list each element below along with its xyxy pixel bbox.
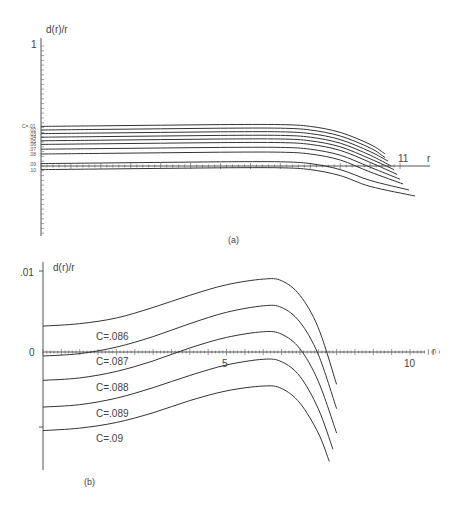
b-curve-2 bbox=[43, 305, 337, 408]
a-y-tick-1: 1 bbox=[31, 39, 37, 50]
curve-label-087: C=.087 bbox=[96, 356, 129, 367]
b-x-tick-5: 5 bbox=[222, 358, 228, 369]
panel-b: d(r)/r .01 0 5 10 r C=.086 C=.087 C=.088… bbox=[20, 262, 439, 487]
panel-a: d(r)/r 1 11 r C=.01.02.03.04.05.06.07.08… bbox=[22, 24, 431, 245]
b-y-axis-label: d(r)/r bbox=[53, 262, 75, 273]
b-x-tick-10: 10 bbox=[404, 358, 416, 369]
a-legend-label: .10 bbox=[29, 167, 36, 173]
b-y-tick-0: 0 bbox=[29, 347, 35, 358]
b-curve-4 bbox=[43, 359, 333, 449]
a-legend-label: .08 bbox=[29, 151, 36, 157]
curve-label-09: C=.09 bbox=[96, 433, 123, 444]
a-curve-3 bbox=[41, 132, 388, 162]
b-curve-3 bbox=[43, 331, 337, 433]
curve-label-086: C=.086 bbox=[96, 331, 129, 342]
a-x-axis-label: r bbox=[427, 153, 431, 164]
curve-label-088: C=.088 bbox=[96, 382, 129, 393]
a-caption: (a) bbox=[228, 235, 239, 245]
b-caption: (b) bbox=[84, 477, 95, 487]
b-curve-5 bbox=[43, 386, 329, 462]
a-y-axis-label: d(r)/r bbox=[46, 24, 68, 35]
figure: d(r)/r 1 11 r C=.01.02.03.04.05.06.07.08… bbox=[0, 0, 455, 515]
curve-label-089: C=.089 bbox=[96, 408, 129, 419]
a-curve-10 bbox=[41, 168, 415, 196]
b-y-tick-01: .01 bbox=[20, 267, 34, 278]
a-x-tick-11: 11 bbox=[398, 153, 409, 164]
